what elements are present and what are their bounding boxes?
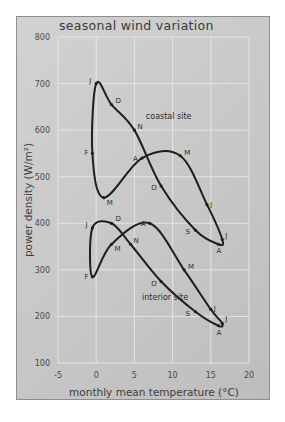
month-label: S bbox=[186, 310, 191, 318]
x-tick-label: 10 bbox=[168, 371, 178, 380]
gridlines bbox=[58, 37, 249, 363]
month-label: O bbox=[151, 184, 157, 192]
month-label: J bbox=[84, 221, 87, 229]
month-label: F bbox=[84, 149, 88, 157]
y-tick-label: 100 bbox=[35, 359, 50, 368]
month-label: F bbox=[84, 273, 88, 281]
x-tick-label: 15 bbox=[206, 371, 216, 380]
data-point bbox=[194, 310, 197, 313]
month-label: D bbox=[115, 215, 120, 223]
month-label: N bbox=[134, 237, 139, 245]
series-interior-site: JFMAMJJASOND interior site bbox=[84, 215, 227, 336]
data-point bbox=[160, 184, 163, 187]
coastal-site-label: coastal site bbox=[146, 112, 192, 121]
x-tick-label: -5 bbox=[54, 371, 62, 380]
x-tick-label: 0 bbox=[94, 371, 99, 380]
y-tick-label: 400 bbox=[35, 219, 50, 228]
y-tick-label: 500 bbox=[35, 173, 50, 182]
month-label: J bbox=[224, 315, 227, 323]
month-label: J bbox=[88, 77, 91, 85]
data-point bbox=[182, 268, 185, 271]
x-tick-label: 5 bbox=[132, 371, 137, 380]
x-axis-label: monthly mean temperature (°C) bbox=[69, 386, 239, 398]
data-point bbox=[129, 243, 132, 246]
month-label: M bbox=[107, 199, 113, 207]
wind-variation-chart: -505101520100200300400500600700800 seaso… bbox=[0, 0, 285, 422]
data-point bbox=[140, 156, 143, 159]
y-tick-label: 700 bbox=[35, 80, 50, 89]
month-label: A bbox=[216, 329, 221, 337]
month-label: J bbox=[213, 305, 216, 313]
data-point bbox=[217, 243, 220, 246]
data-point bbox=[221, 238, 224, 241]
month-label: D bbox=[115, 97, 120, 105]
data-point bbox=[221, 322, 224, 325]
month-label: A bbox=[216, 247, 221, 255]
data-point bbox=[91, 152, 94, 155]
chart-title: seasonal wind variation bbox=[59, 18, 214, 33]
month-label: M bbox=[184, 149, 190, 157]
month-label: M bbox=[114, 245, 120, 253]
month-label: N bbox=[137, 123, 142, 131]
x-tick-label: 20 bbox=[244, 371, 254, 380]
data-point bbox=[110, 243, 113, 246]
month-label: M bbox=[188, 263, 194, 271]
data-point bbox=[194, 229, 197, 232]
y-axis-label: power density (W/m²) bbox=[22, 143, 34, 257]
data-point bbox=[133, 129, 136, 132]
y-tick-label: 200 bbox=[35, 312, 50, 321]
month-label: O bbox=[151, 280, 157, 288]
interior-site-label: interior site bbox=[142, 293, 188, 302]
data-point bbox=[91, 275, 94, 278]
month-label: J bbox=[224, 232, 227, 240]
y-tick-label: 300 bbox=[35, 266, 50, 275]
month-label: J bbox=[209, 201, 212, 209]
data-point bbox=[209, 308, 212, 311]
coastal-site-curve bbox=[92, 82, 223, 245]
data-point bbox=[148, 222, 151, 225]
data-point bbox=[110, 222, 113, 225]
data-point bbox=[110, 103, 113, 106]
data-point bbox=[160, 280, 163, 283]
data-point bbox=[95, 82, 98, 85]
data-point bbox=[217, 324, 220, 327]
month-label: A bbox=[141, 220, 146, 228]
month-label: A bbox=[133, 155, 138, 163]
y-tick-label: 600 bbox=[35, 126, 50, 135]
y-tick-label: 800 bbox=[35, 33, 50, 42]
data-point bbox=[179, 154, 182, 157]
data-point bbox=[205, 203, 208, 206]
data-point bbox=[102, 196, 105, 199]
month-label: S bbox=[186, 228, 191, 236]
data-point bbox=[91, 226, 94, 229]
